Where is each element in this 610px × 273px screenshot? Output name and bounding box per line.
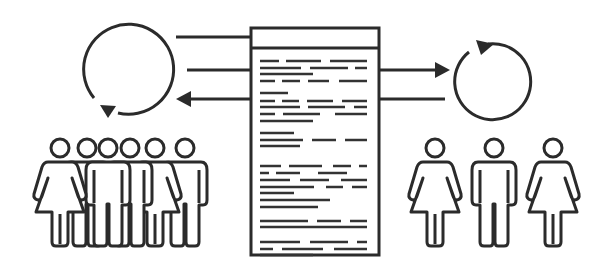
arrow-right-icon (435, 62, 450, 78)
right-people-group (409, 139, 579, 246)
left-connectors (176, 37, 251, 107)
person-man-icon (472, 139, 516, 246)
diagram-canvas (0, 0, 610, 273)
right-cycle-icon (455, 40, 531, 120)
left-people-group (34, 139, 207, 246)
document-icon (251, 28, 379, 255)
right-connectors (379, 62, 450, 99)
person-woman-icon (527, 139, 579, 246)
left-cycle-icon (84, 24, 174, 118)
person-woman-icon (409, 139, 461, 246)
arrow-left-icon (176, 91, 191, 107)
